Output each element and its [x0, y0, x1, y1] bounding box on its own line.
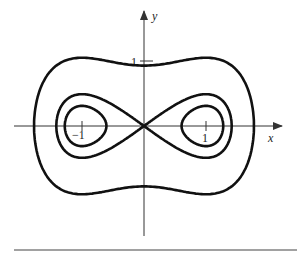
y-tick-label-1: 1 [131, 55, 137, 69]
x-tick-label-pos1: 1 [202, 131, 208, 145]
x-axis-label: x [267, 131, 274, 145]
y-axis-label: y [151, 9, 158, 23]
x-tick-label-neg1: −1 [72, 128, 85, 142]
level-curve-diagram: −1 1 1 x y [0, 0, 297, 255]
